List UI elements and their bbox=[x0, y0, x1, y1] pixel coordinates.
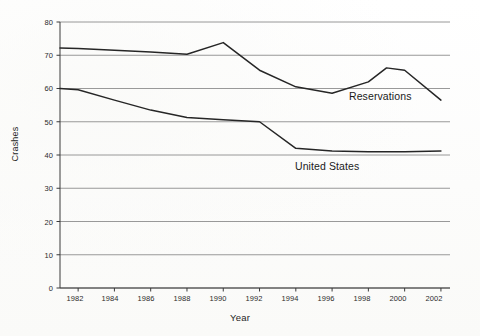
ytick-label-0: 0 bbox=[33, 284, 53, 293]
xtick-label-2000: 2000 bbox=[381, 294, 415, 303]
y-axis-title: Crashes bbox=[10, 114, 20, 174]
xtick-label-1984: 1984 bbox=[93, 294, 127, 303]
ytick-label-30: 30 bbox=[33, 184, 53, 193]
ytick-label-70: 70 bbox=[33, 51, 53, 60]
series-label-reservations: Reservations bbox=[349, 90, 411, 102]
crashes-line-chart: 80 70 60 50 40 30 20 10 0 1982 1984 1986… bbox=[0, 0, 480, 336]
ytick-label-20: 20 bbox=[33, 218, 53, 227]
chart-plot-area bbox=[0, 0, 480, 336]
series-label-united-states: United States bbox=[295, 160, 359, 172]
xtick-label-2002: 2002 bbox=[417, 294, 451, 303]
xtick-label-1990: 1990 bbox=[201, 294, 235, 303]
x-axis-title: Year bbox=[0, 312, 480, 323]
xtick-label-1996: 1996 bbox=[309, 294, 343, 303]
xtick-label-1986: 1986 bbox=[129, 294, 163, 303]
xtick-label-1998: 1998 bbox=[345, 294, 379, 303]
ytick-label-40: 40 bbox=[33, 151, 53, 160]
xtick-label-1992: 1992 bbox=[237, 294, 271, 303]
xtick-label-1994: 1994 bbox=[273, 294, 307, 303]
ytick-label-50: 50 bbox=[33, 118, 53, 127]
xtick-label-1988: 1988 bbox=[165, 294, 199, 303]
ytick-label-60: 60 bbox=[33, 84, 53, 93]
ytick-label-10: 10 bbox=[33, 251, 53, 260]
ytick-label-80: 80 bbox=[33, 18, 53, 27]
xtick-label-1982: 1982 bbox=[58, 294, 92, 303]
